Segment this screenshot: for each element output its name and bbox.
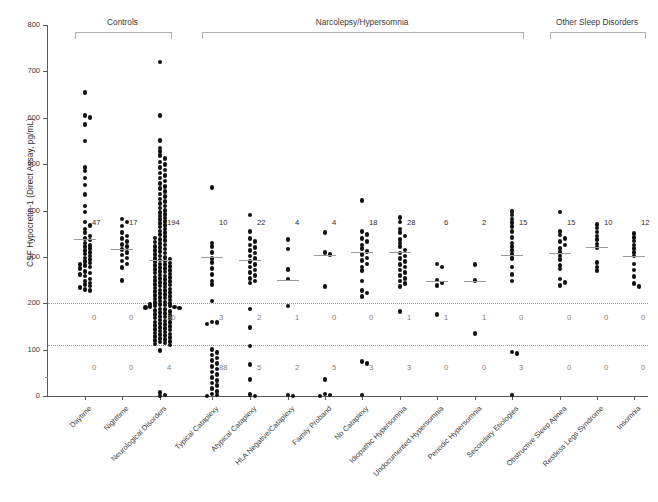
data-point: [360, 288, 365, 293]
data-point: [83, 274, 88, 279]
data-point: [158, 160, 163, 165]
data-point: [83, 169, 88, 174]
data-point: [83, 176, 88, 181]
data-point: [83, 90, 88, 95]
count-label: 0: [129, 363, 133, 372]
data-point: [120, 242, 125, 247]
median-marker: [586, 247, 608, 248]
data-point: [473, 331, 478, 336]
data-point: [88, 271, 93, 276]
data-point: [88, 265, 93, 270]
data-point: [158, 340, 163, 345]
data-point: [248, 248, 253, 253]
y-tick: [43, 257, 48, 258]
y-tick-label: 200: [14, 299, 40, 307]
y-tick: [43, 164, 48, 165]
count-label: 0: [444, 363, 448, 372]
data-point: [248, 243, 253, 248]
data-point: [253, 251, 258, 256]
data-point: [177, 306, 182, 311]
count-label: 0: [641, 313, 645, 322]
data-point: [360, 236, 365, 241]
count-label: 5: [257, 363, 261, 372]
data-point: [158, 171, 163, 176]
x-tick: [325, 396, 326, 400]
data-point: [158, 394, 163, 399]
data-point: [248, 254, 253, 259]
data-point: [163, 189, 168, 194]
data-point: [360, 258, 365, 263]
data-point: [365, 239, 370, 244]
y-tick-minor: [45, 377, 48, 378]
y-tick-label: 100: [14, 346, 40, 354]
median-marker: [426, 281, 448, 282]
x-tick: [212, 396, 213, 400]
count-label: 3: [369, 363, 373, 372]
data-point: [88, 288, 93, 293]
data-point: [153, 303, 158, 308]
data-point: [158, 153, 163, 158]
data-point: [558, 257, 563, 262]
count-label: 0: [567, 363, 571, 372]
data-point: [120, 236, 125, 241]
data-point: [172, 305, 177, 310]
median-marker: [74, 239, 96, 240]
data-point: [158, 186, 163, 191]
data-point: [83, 287, 88, 292]
data-point: [558, 267, 563, 272]
data-point: [158, 181, 163, 186]
data-point: [365, 291, 370, 296]
data-point: [120, 217, 125, 222]
y-tick-label: 400: [14, 207, 40, 215]
data-point: [210, 260, 215, 265]
data-point: [398, 230, 403, 235]
count-label: 0: [641, 363, 645, 372]
median-marker: [464, 281, 486, 282]
data-point: [158, 138, 163, 143]
data-point: [253, 279, 258, 284]
data-point: [210, 320, 215, 325]
data-point: [210, 347, 215, 352]
data-point: [248, 362, 253, 367]
data-point: [248, 307, 253, 312]
x-tick: [437, 396, 438, 400]
data-point: [205, 322, 210, 327]
median-marker: [201, 257, 223, 258]
data-point: [210, 375, 215, 380]
data-point: [120, 224, 125, 229]
count-label: 4: [295, 218, 299, 227]
data-point: [510, 235, 515, 240]
data-point: [440, 265, 445, 270]
data-point: [163, 173, 168, 178]
median-marker: [149, 260, 171, 261]
data-point: [510, 272, 515, 277]
count-label: 0: [332, 313, 336, 322]
count-label: 4: [167, 363, 171, 372]
data-point: [78, 272, 83, 277]
data-point: [210, 272, 215, 277]
count-label: 3: [219, 313, 223, 322]
x-tick: [475, 396, 476, 400]
data-point: [515, 351, 520, 356]
data-point: [120, 265, 125, 270]
y-axis-title: CSF Hypocretin-1 (Direct Assay, pg/mL): [26, 68, 35, 318]
group-bracket: [75, 32, 172, 39]
data-point: [360, 246, 365, 251]
x-tick: [85, 396, 86, 400]
data-point: [248, 325, 253, 330]
x-tick: [597, 396, 598, 400]
count-label: 3: [519, 363, 523, 372]
data-point: [125, 256, 130, 261]
data-point: [403, 281, 408, 286]
count-label: 2: [295, 363, 299, 372]
data-point: [83, 210, 88, 215]
count-label: 0: [482, 363, 486, 372]
data-point: [83, 220, 88, 225]
data-point: [248, 276, 253, 281]
group-bracket: [202, 32, 524, 39]
data-point: [120, 278, 125, 283]
data-point: [365, 256, 370, 261]
median-marker: [277, 280, 299, 281]
data-point: [125, 239, 130, 244]
data-point: [286, 237, 291, 242]
